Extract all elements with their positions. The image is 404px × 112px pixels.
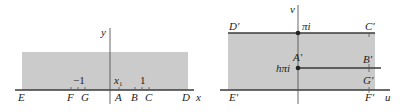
label-h-pi-i: hπi [276,62,290,74]
conformal-map-diagram: y x −1 x1 1 E F G A B C D v u πi hπi D′ … [0,0,404,112]
point-E: E [17,91,25,103]
point-D-prime: D′ [228,20,240,32]
point-B: B [131,91,138,103]
point-A-prime: A′ [292,51,303,63]
point-C-prime: C′ [365,20,375,32]
point-F-prime: F′ [364,91,375,103]
y-axis-label: y [100,26,106,38]
tick-label-one: 1 [140,74,146,86]
point-A: A [114,91,122,103]
x-axis-label: x [195,91,201,103]
point-G-prime: G′ [363,74,374,86]
point-E-prime: E′ [228,91,239,103]
label-pi-i: πi [302,20,311,32]
point-D: D [181,91,190,103]
point-G: G [81,91,89,103]
point-pi-i-dot [296,31,301,36]
point-F: F [66,91,74,103]
left-shaded-region [22,52,188,90]
v-axis-label: v [290,3,295,15]
left-plane: y x −1 x1 1 E F G A B C D [15,26,201,104]
point-h-pi-i-dot [296,66,301,71]
right-plane: v u πi hπi D′ C′ A′ B′ G′ E′ F′ [220,3,391,104]
u-axis-label: u [385,91,391,103]
point-B-prime: B′ [363,53,373,65]
tick-label-minus-one: −1 [73,74,85,86]
point-C: C [145,91,153,103]
